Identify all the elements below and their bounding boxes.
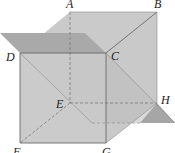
cube-diagram: A B C D E F G H <box>0 0 175 153</box>
label-C: C <box>111 49 120 63</box>
label-D: D <box>5 50 15 64</box>
label-G: G <box>102 145 111 153</box>
label-A: A <box>65 0 74 11</box>
label-E: E <box>55 97 64 111</box>
label-F: F <box>12 145 21 153</box>
label-B: B <box>154 0 162 11</box>
label-H: H <box>160 93 171 107</box>
